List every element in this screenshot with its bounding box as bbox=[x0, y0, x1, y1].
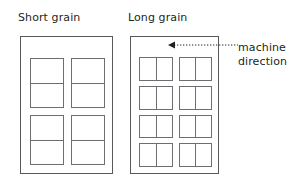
page-cell bbox=[72, 83, 104, 107]
panel-title-long-grain: Long grain bbox=[128, 11, 187, 24]
page-block bbox=[139, 143, 173, 167]
page-block bbox=[139, 86, 173, 110]
sheet-long-grain bbox=[130, 36, 219, 174]
callout-label-machine-direction: machine direction bbox=[238, 41, 294, 69]
imposition-grid-long-grain bbox=[139, 57, 212, 167]
page-cell bbox=[72, 140, 104, 164]
page-cell bbox=[31, 140, 63, 164]
page-cell bbox=[156, 116, 172, 138]
callout-leader-line bbox=[168, 40, 240, 54]
page-block bbox=[179, 143, 213, 167]
page-cell bbox=[195, 116, 211, 138]
page-cell bbox=[31, 83, 63, 107]
page-cell bbox=[140, 116, 156, 138]
page-cell bbox=[180, 87, 196, 109]
page-cell bbox=[156, 87, 172, 109]
panel-title-short-grain: Short grain bbox=[18, 11, 80, 24]
page-cell bbox=[72, 59, 104, 83]
page-block bbox=[139, 57, 173, 81]
grain-direction-figure: Short grain Long grain bbox=[0, 0, 294, 196]
page-block bbox=[71, 115, 105, 165]
page-cell bbox=[156, 58, 172, 80]
page-cell bbox=[195, 87, 211, 109]
page-cell bbox=[140, 58, 156, 80]
imposition-grid-short-grain bbox=[30, 58, 105, 165]
page-block bbox=[179, 86, 213, 110]
page-cell bbox=[140, 87, 156, 109]
page-cell bbox=[72, 116, 104, 140]
page-cell bbox=[180, 144, 196, 166]
page-block bbox=[139, 115, 173, 139]
page-block bbox=[30, 115, 64, 165]
page-block bbox=[179, 115, 213, 139]
page-cell bbox=[140, 144, 156, 166]
page-block bbox=[179, 57, 213, 81]
page-cell bbox=[180, 58, 196, 80]
page-cell bbox=[31, 59, 63, 83]
page-cell bbox=[31, 116, 63, 140]
page-block bbox=[30, 58, 64, 108]
arrowhead-left-icon bbox=[168, 42, 175, 49]
page-cell bbox=[195, 144, 211, 166]
page-cell bbox=[156, 144, 172, 166]
sheet-short-grain bbox=[20, 36, 113, 174]
page-cell bbox=[180, 116, 196, 138]
page-block bbox=[71, 58, 105, 108]
page-cell bbox=[195, 58, 211, 80]
